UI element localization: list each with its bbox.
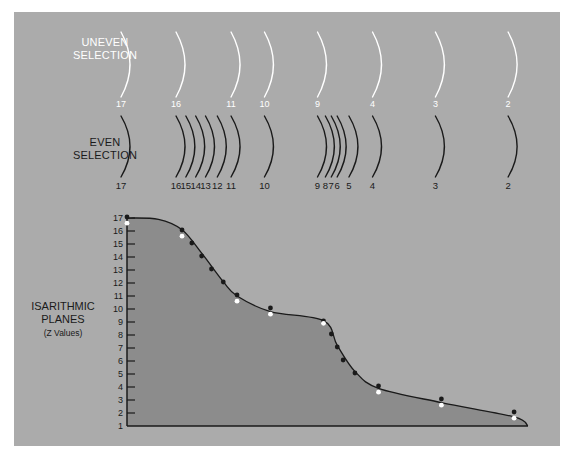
z-axis-tick-label: 13 [113,265,123,275]
uneven-sample-point [376,390,381,395]
z-axis-tick-label: 10 [113,304,123,314]
even-sample-point [189,241,194,246]
z-axis-tick-label: 16 [113,226,123,236]
z-axis-tick-label: 11 [114,291,123,301]
even-sample-point [199,254,204,259]
uneven-arc-label: 17 [116,99,126,109]
even-arc-label: 6 [335,180,340,191]
uneven-arc-label: 9 [315,99,320,109]
uneven-arc-label: 10 [259,99,269,109]
even-arc [231,116,240,177]
z-axis-tick-label: 14 [113,252,123,262]
even-arc [349,116,358,177]
even-arc-label: 7 [329,180,334,191]
z-axis-tick-label: 7 [118,343,123,353]
even-arc-label: 4 [370,180,375,191]
even-arc [337,116,346,177]
even-arc-label: 11 [226,180,236,191]
z-axis-tick-label: 12 [113,278,123,288]
uneven-arc-label: 3 [433,99,438,109]
even-sample-point [335,345,340,350]
uneven-arc [508,32,517,97]
even-arc-label: 8 [323,180,328,191]
even-sample-point [221,280,226,285]
uneven-sample-point [268,312,273,317]
even-sample-point [125,215,130,220]
even-arc-label: 12 [212,180,223,191]
even-arc-label: 2 [505,180,510,191]
uneven-arc-label: 2 [506,99,511,109]
even-arc [186,116,195,177]
profile-area [127,218,528,426]
even-arc [264,116,273,177]
even-sample-point [439,397,444,402]
even-sample-point [376,384,381,389]
z-axis-tick-label: 17 [113,213,123,223]
even-arc [205,116,214,177]
uneven-arc [264,32,273,97]
uneven-sample-point [125,221,130,226]
even-sample-point [329,332,334,337]
uneven-sample-point [235,299,240,304]
uneven-arc [121,32,130,97]
uneven-arc [435,32,444,97]
z-axis-tick-label: 5 [118,369,123,379]
even-arc-label: 10 [259,180,270,191]
even-arc [121,116,130,177]
even-arc-label: 13 [200,180,211,191]
even-arc-label: 17 [116,180,127,191]
even-sample-point [341,358,346,363]
uneven-sample-point [512,416,517,421]
even-arc [331,116,340,177]
even-sample-point [353,371,358,376]
even-sample-point [268,306,273,311]
even-arc-label: 9 [315,180,320,191]
even-sample-point [180,228,185,233]
z-axis-tick-label: 4 [118,382,123,392]
uneven-sample-point [439,403,444,408]
z-axis-tick-label: 9 [118,317,123,327]
even-arc [217,116,226,177]
even-arc [196,116,205,177]
uneven-arc [231,32,240,97]
even-sample-point [209,267,214,272]
uneven-arc-label: 4 [370,99,375,109]
z-axis-tick-label: 1 [118,421,123,431]
even-arc [176,116,185,177]
z-axis-tick-label: 3 [118,395,123,405]
uneven-sample-point [321,321,326,326]
uneven-arc [373,32,382,97]
even-arc [373,116,382,177]
even-arc [318,116,327,177]
uneven-sample-point [180,234,185,239]
isarithmic-diagram-svg: 1716111094321716151413121110987654321234… [0,0,572,462]
z-axis-tick-label: 8 [118,330,123,340]
even-arc-label: 5 [346,180,351,191]
even-arc-label: 3 [433,180,438,191]
z-axis-tick-label: 6 [118,356,123,366]
even-sample-point [512,410,517,415]
even-arc [435,116,444,177]
even-arc [508,116,517,177]
even-sample-point [235,293,240,298]
z-axis-tick-label: 15 [113,239,123,249]
uneven-arc-label: 16 [171,99,181,109]
uneven-arc [318,32,327,97]
z-axis-tick-label: 2 [118,408,123,418]
uneven-arc [176,32,185,97]
uneven-arc-label: 11 [226,99,235,109]
